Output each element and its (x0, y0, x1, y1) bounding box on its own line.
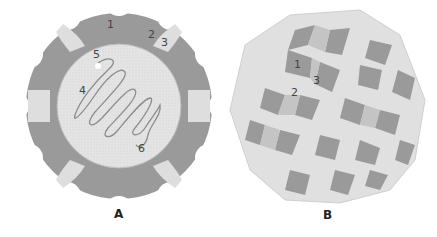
label-1: 1 (294, 58, 301, 71)
label-2: 2 (291, 86, 298, 99)
label-1: 1 (107, 18, 114, 31)
panel-b-polyhedron-diagram: 1 2 3 B (220, 0, 437, 237)
label-6: 6 (138, 142, 145, 155)
label-3: 3 (161, 36, 168, 49)
label-2: 2 (148, 28, 155, 41)
label-4: 4 (79, 84, 86, 97)
gear-shape-icon (0, 0, 220, 237)
panel-a-gear-diagram: 1 2 3 4 5 6 A (0, 0, 220, 237)
label-3: 3 (313, 74, 320, 87)
label-5: 5 (93, 48, 100, 61)
polyhedron-shape-icon (220, 0, 437, 237)
caption-b: B (323, 208, 332, 222)
caption-a: A (114, 207, 123, 221)
